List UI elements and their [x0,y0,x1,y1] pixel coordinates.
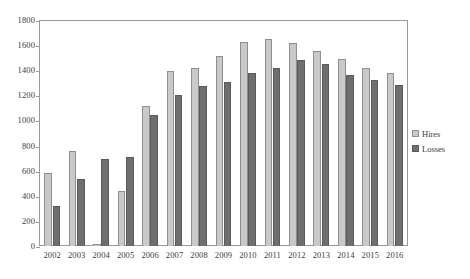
y-axis-tick-label: 400 [22,191,35,201]
x-axis-tick-label: 2012 [288,250,305,260]
bar-losses-2006 [150,115,158,246]
bar-losses-2016 [395,85,403,246]
y-axis: 020040060080010001200140016001800 [0,0,39,279]
legend-item-label: Hires [422,129,440,139]
x-axis-tick-label: 2016 [386,250,403,260]
x-axis-tick-label: 2011 [264,250,281,260]
bar-group [240,20,256,246]
x-axis-tick-label: 2009 [215,250,232,260]
bar-losses-2015 [371,80,379,246]
bar-group [93,20,109,246]
x-axis-tick-label: 2008 [190,250,207,260]
y-axis-tick-label: 1000 [18,115,35,125]
bar-group [69,20,85,246]
x-axis-tick-label: 2014 [337,250,354,260]
bar-chart: 020040060080010001200140016001800 200220… [0,0,470,279]
bar-group [387,20,403,246]
y-axis-tick-label: 0 [31,241,35,251]
y-axis-tick-label: 600 [22,166,35,176]
legend-item-hires[interactable]: Hires [412,127,470,140]
bar-hires-2014 [338,59,346,246]
y-axis-tick-label: 800 [22,141,35,151]
bar-hires-2015 [362,68,370,246]
bar-losses-2010 [248,73,256,246]
y-axis-tick-label: 1200 [18,90,35,100]
bar-group [289,20,305,246]
bar-hires-2009 [216,56,224,246]
x-axis-tick-label: 2003 [68,250,85,260]
bar-losses-2002 [53,206,61,246]
legend-item-losses[interactable]: Losses [412,142,470,155]
chart-legend: HiresLosses [412,127,470,157]
bar-losses-2004 [101,159,109,246]
y-axis-tick-label: 1400 [18,65,35,75]
bar-hires-2016 [387,73,395,246]
hires-swatch-icon [412,130,419,137]
bar-losses-2008 [199,86,207,246]
bar-hires-2007 [167,71,175,246]
y-axis-tick-label: 1800 [18,15,35,25]
y-axis-tick-label: 200 [22,216,35,226]
bar-group [362,20,378,246]
bars-container [40,20,407,246]
bar-hires-2011 [265,39,273,246]
bar-group [313,20,329,246]
legend-item-label: Losses [422,144,445,154]
bar-hires-2003 [69,151,77,246]
bar-group [118,20,134,246]
bar-group [265,20,281,246]
bar-hires-2012 [289,43,297,246]
bar-hires-2008 [191,68,199,246]
x-axis-tick-label: 2015 [362,250,379,260]
bar-losses-2009 [224,82,232,246]
bar-group [216,20,232,246]
bar-hires-2005 [118,191,126,246]
bar-group [167,20,183,246]
x-axis-tick-label: 2010 [239,250,256,260]
x-axis-tick-label: 2006 [141,250,158,260]
bar-hires-2002 [44,173,52,246]
x-axis-tick-label: 2002 [44,250,61,260]
x-axis: 2002200320042005200620072008200920102011… [40,250,407,270]
bar-group [44,20,60,246]
y-axis-tick-label: 1600 [18,40,35,50]
bar-hires-2006 [142,106,150,246]
x-axis-tick-label: 2007 [166,250,183,260]
bar-group [142,20,158,246]
bar-group [191,20,207,246]
bar-group [338,20,354,246]
bar-losses-2012 [297,60,305,246]
bar-losses-2007 [175,95,183,246]
bar-hires-2004 [93,244,101,246]
bar-losses-2011 [273,68,281,246]
bar-losses-2005 [126,157,134,246]
x-axis-tick-label: 2013 [313,250,330,260]
y-axis-tick-mark [36,247,40,248]
bar-losses-2003 [77,179,85,246]
losses-swatch-icon [412,145,419,152]
bar-hires-2013 [313,51,321,246]
x-axis-tick-label: 2004 [92,250,109,260]
bar-hires-2010 [240,42,248,246]
bar-losses-2014 [346,75,354,246]
bar-losses-2013 [322,64,330,246]
x-axis-tick-label: 2005 [117,250,134,260]
